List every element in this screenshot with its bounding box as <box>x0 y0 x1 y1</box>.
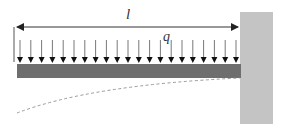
load-label: q <box>163 30 170 44</box>
cantilever-beam-diagram: l q <box>0 0 281 133</box>
diagram-svg <box>0 0 281 133</box>
deflection-curve <box>17 78 240 113</box>
distributed-load-q <box>17 40 239 63</box>
length-label: l <box>126 7 130 22</box>
fixed-wall-support <box>240 12 273 124</box>
dimension-line-l <box>14 27 238 62</box>
beam <box>17 64 241 78</box>
